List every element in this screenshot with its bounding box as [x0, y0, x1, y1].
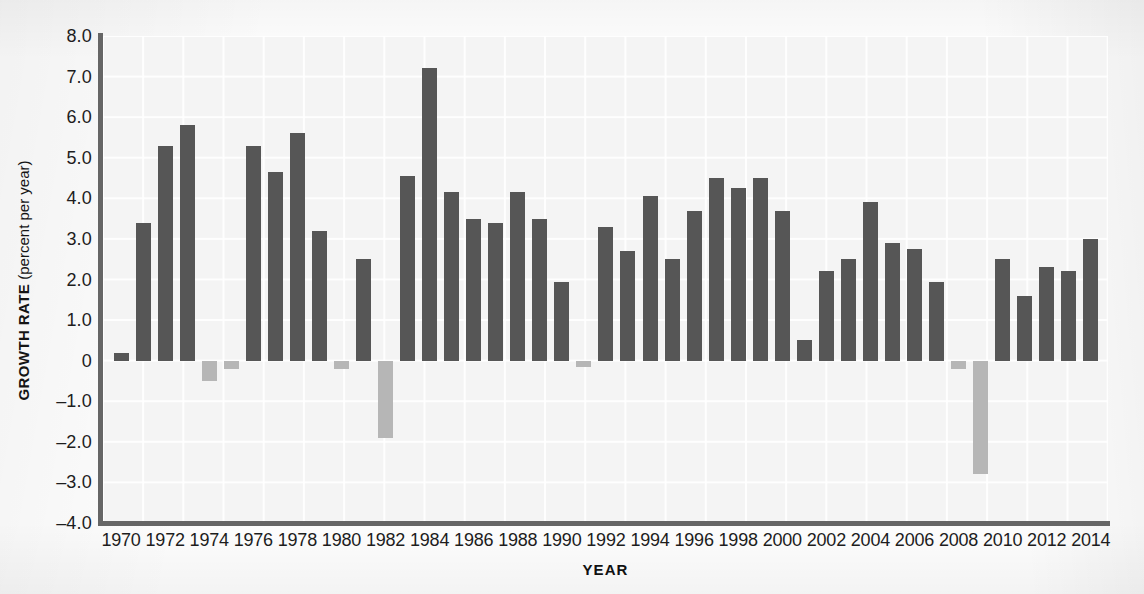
gdp-growth-rate-bar-chart: 8.07.06.05.04.03.02.01.00–1.0–2.0–3.0–4.…: [0, 0, 1144, 594]
bar-1979: [312, 231, 327, 361]
bar-2000: [775, 211, 790, 361]
y-axis-title-bold: GROWTH RATE: [15, 284, 32, 401]
bar-1978: [290, 133, 305, 360]
bar-1987: [488, 223, 503, 361]
bar-1991: [576, 361, 591, 367]
bar-1986: [466, 219, 481, 361]
bar-2011: [1017, 296, 1032, 361]
bar-1995: [665, 259, 680, 360]
bar-1996: [687, 211, 702, 361]
bar-2005: [885, 243, 900, 361]
y-axis-line: [98, 33, 103, 526]
bar-1971: [136, 223, 151, 361]
bar-2003: [841, 259, 856, 360]
bar-1999: [753, 178, 768, 361]
bar-2001: [797, 340, 812, 360]
bar-1977: [268, 172, 283, 361]
bar-1976: [246, 146, 261, 361]
y-axis-title-unit: (percent per year): [15, 161, 32, 284]
bar-1973: [180, 125, 195, 360]
plot-area: [103, 36, 1108, 523]
bar-1970: [114, 353, 129, 361]
bar-1983: [400, 176, 415, 361]
bar-2007: [929, 282, 944, 361]
bar-2014: [1083, 239, 1098, 361]
x-tick-label: 2014: [1061, 530, 1121, 551]
bar-2002: [819, 271, 834, 360]
x-axis-tick-labels: 1970197219741976197819801982198419861988…: [0, 530, 1144, 558]
bar-2004: [863, 202, 878, 360]
bar-1982: [378, 361, 393, 438]
bar-1984: [422, 68, 437, 360]
bar-1988: [510, 192, 525, 360]
x-axis-title: YEAR: [103, 561, 1108, 578]
bar-1975: [224, 361, 239, 369]
bar-2013: [1061, 271, 1076, 360]
bar-1985: [444, 192, 459, 360]
bar-2010: [995, 259, 1010, 360]
bar-1980: [334, 361, 349, 369]
bar-1989: [532, 219, 547, 361]
bar-1998: [731, 188, 746, 360]
bar-2006: [907, 249, 922, 361]
y-axis-title: GROWTH RATE (percent per year): [15, 46, 32, 516]
bar-1990: [554, 282, 569, 361]
bar-1994: [643, 196, 658, 360]
bar-2008: [951, 361, 966, 369]
y-tick-label: 8.0: [4, 26, 92, 47]
bar-1981: [356, 259, 371, 360]
bar-1972: [158, 146, 173, 361]
bar-2009: [973, 361, 988, 475]
bar-1997: [709, 178, 724, 361]
bar-1992: [598, 227, 613, 361]
x-axis-line: [98, 521, 1110, 526]
bar-1974: [202, 361, 217, 381]
bar-1993: [620, 251, 635, 361]
bar-2012: [1039, 267, 1054, 360]
